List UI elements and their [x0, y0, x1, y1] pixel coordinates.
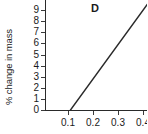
y-tick-label: 6 — [25, 38, 39, 48]
x-tick-label: 0.3 — [105, 117, 131, 128]
y-tick-label: 2 — [25, 83, 39, 93]
y-tick-mark — [41, 55, 45, 56]
y-tick-mark — [41, 99, 45, 100]
x-tick-label: 0.2 — [80, 117, 106, 128]
y-tick-label: 1 — [25, 94, 39, 104]
x-tick-mark — [93, 111, 94, 115]
x-tick-label: 0.4 — [130, 117, 147, 128]
y-axis-line — [45, 0, 46, 111]
x-tick-label: 0.1 — [55, 117, 81, 128]
x-tick-mark — [143, 111, 144, 115]
x-tick-mark — [118, 111, 119, 115]
y-tick-mark — [41, 77, 45, 78]
y-tick-label: 0 — [25, 105, 39, 115]
x-axis-line — [45, 110, 147, 111]
y-tick-label: 3 — [25, 72, 39, 82]
y-tick-mark — [41, 66, 45, 67]
y-tick-label: 4 — [25, 61, 39, 71]
panel-label: D — [86, 2, 104, 14]
y-tick-mark — [41, 32, 45, 33]
y-tick-label: 8 — [25, 16, 39, 26]
data-series-line — [0, 0, 147, 134]
y-tick-mark — [41, 21, 45, 22]
y-tick-mark — [41, 88, 45, 89]
y-tick-label: 7 — [25, 27, 39, 37]
y-tick-mark — [41, 10, 45, 11]
y-tick-mark — [41, 43, 45, 44]
y-tick-label: 9 — [25, 5, 39, 15]
y-axis-title: % change in mass — [0, 0, 16, 134]
series-line-segment — [71, 3, 148, 110]
chart-figure-d: % change in mass 0 1 2 3 4 5 6 7 8 9 0.1… — [0, 0, 147, 134]
y-tick-mark — [41, 110, 45, 111]
x-tick-mark — [68, 111, 69, 115]
y-tick-label: 5 — [25, 50, 39, 60]
